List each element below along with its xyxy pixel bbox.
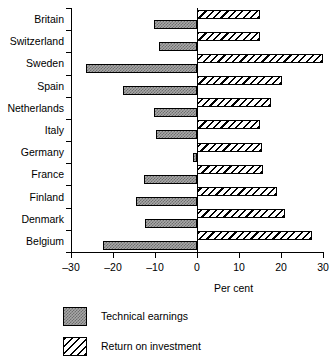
bar-technical-earnings [144,175,197,184]
bar-technical-earnings [103,241,197,250]
legend-item-technical-earnings: Technical earnings [63,301,201,331]
bar-technical-earnings [123,86,197,95]
x-axis-tick-label: 0 [182,261,212,273]
bar-technical-earnings [159,42,197,51]
bar-row [71,163,323,185]
bar-return-on-investment [197,143,262,152]
bar-return-on-investment [197,209,285,218]
bar-row [71,141,323,163]
x-axis-tick [323,252,324,258]
y-axis-label-netherlands: Netherlands [0,97,68,119]
bar-return-on-investment [197,76,282,85]
bar-return-on-investment [197,120,260,129]
y-axis-category-labels: Britain Switzerland Sweden Spain Netherl… [0,8,68,252]
chart-legend: Technical earnings Return on investment [63,301,201,359]
y-axis-label-germany: Germany [0,141,68,163]
bar-row [71,8,323,30]
y-axis-label-spain: Spain [0,75,68,97]
bar-row [71,97,323,119]
x-axis-tick [197,252,198,258]
y-axis-label-italy: Italy [0,119,68,141]
bar-return-on-investment [197,32,260,41]
bar-technical-earnings [136,197,197,206]
x-axis-tick [281,252,282,258]
bar-return-on-investment [197,165,263,174]
bar-return-on-investment [197,231,312,240]
bar-technical-earnings [154,108,197,117]
y-axis-label-denmark: Denmark [0,208,68,230]
x-axis-tick-label: 20 [266,261,296,273]
bar-technical-earnings [86,64,197,73]
bar-return-on-investment [197,54,323,63]
y-axis-label-finland: Finland [0,186,68,208]
bar-row [71,30,323,52]
x-axis-tick [239,252,240,258]
x-axis-title: Per cent [214,282,253,294]
bar-return-on-investment [197,187,277,196]
legend-label-return-on-investment: Return on investment [101,340,201,352]
legend-swatch-hatched-icon [63,337,87,356]
x-axis-tick [155,252,156,258]
y-axis-label-sweden: Sweden [0,52,68,74]
x-axis-tick [71,252,72,258]
plot-area [71,8,323,252]
bar-technical-earnings [145,219,197,228]
x-axis-tick-label: –30 [56,261,86,273]
bar-technical-earnings [154,20,197,29]
x-axis-tick-label: –10 [140,261,170,273]
bar-row [71,75,323,97]
bar-return-on-investment [197,98,271,107]
x-axis-tick-label: 10 [224,261,254,273]
y-axis-label-belgium: Belgium [0,230,68,252]
bar-return-on-investment [197,10,260,19]
bar-row [71,119,323,141]
x-axis-tick-label: –20 [98,261,128,273]
legend-label-technical-earnings: Technical earnings [101,310,188,322]
bar-technical-earnings [193,153,197,162]
x-axis-tick [113,252,114,258]
x-axis-tick-label: 30 [308,261,335,273]
legend-swatch-dotted-icon [63,307,87,326]
bar-row [71,208,323,230]
chart-container: Britain Switzerland Sweden Spain Netherl… [0,0,335,359]
bar-technical-earnings [156,130,197,139]
bar-row [71,185,323,207]
legend-item-return-on-investment: Return on investment [63,331,201,359]
y-axis-label-britain: Britain [0,8,68,30]
y-axis-label-switzerland: Switzerland [0,30,68,52]
bar-row [71,230,323,252]
y-axis-label-france: France [0,163,68,185]
bar-row [71,52,323,74]
